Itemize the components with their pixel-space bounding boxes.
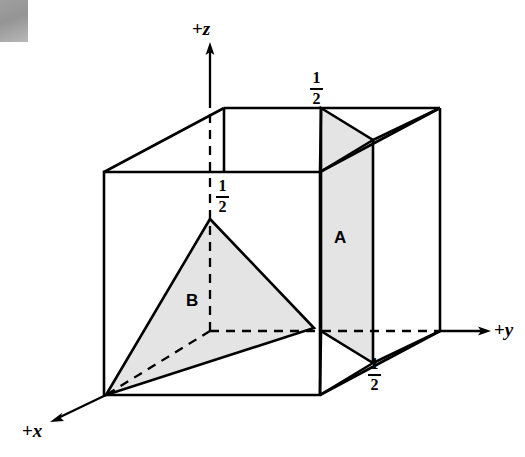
intercept-top-denominator: 2 xyxy=(310,90,323,108)
plane-a-shape xyxy=(321,108,373,363)
axis-label-x-letter: x xyxy=(33,420,43,441)
intercept-bottom-denominator: 2 xyxy=(368,376,381,394)
intercept-z-numerator: 1 xyxy=(216,178,229,196)
axis-label-y: +y xyxy=(494,320,513,339)
axis-label-x: +x xyxy=(22,421,42,440)
axis-label-y-letter: y xyxy=(505,319,513,340)
axis-label-z-letter: z xyxy=(203,18,210,39)
plane-a-lower-fold-line xyxy=(320,363,373,395)
intercept-bottom-numerator: 1 xyxy=(368,356,381,374)
figure-canvas: +z +y +x A B 1 2 1 2 1 2 xyxy=(0,0,525,457)
plane-label-a: A xyxy=(334,229,347,246)
unit-cell-svg xyxy=(0,0,525,457)
plane-a-bottom-diagonal xyxy=(373,331,440,363)
axis-label-y-sign: + xyxy=(494,319,505,340)
cube-edge-top-left-receding xyxy=(104,108,224,172)
x-axis-line xyxy=(58,395,106,418)
plane-a-front-lower-diagonal xyxy=(320,331,321,395)
plane-a-top-diagonal xyxy=(373,108,440,140)
plane-a-front-upper-diagonal xyxy=(320,108,321,172)
intercept-top-numerator: 1 xyxy=(310,70,323,88)
axis-label-z: +z xyxy=(192,19,210,38)
intercept-label-top-half: 1 2 xyxy=(310,70,323,108)
plane-label-b: B xyxy=(186,292,199,309)
axis-label-z-sign: + xyxy=(192,18,203,39)
intercept-z-denominator: 2 xyxy=(216,198,229,216)
intercept-label-bottom-half: 1 2 xyxy=(368,356,381,394)
intercept-label-z-half: 1 2 xyxy=(216,178,229,216)
axis-label-x-sign: + xyxy=(22,420,33,441)
